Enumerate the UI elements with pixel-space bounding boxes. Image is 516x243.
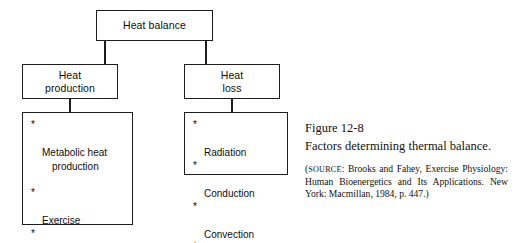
list-item-label: Radiation	[204, 147, 246, 158]
connector-balance-to-production	[104, 41, 106, 64]
list-item: * Conduction	[193, 160, 280, 201]
list-item: * Radiation	[193, 119, 280, 160]
list-item: * Exercise	[31, 187, 125, 228]
node-heat-loss: Heat loss	[184, 64, 280, 99]
figure-caption: Figure 12-8 Factors determining thermal …	[305, 120, 508, 201]
connector-production-to-factors	[69, 99, 71, 112]
bullet-icon: *	[31, 227, 35, 241]
node-loss-factors: * Radiation * Conduction * Convection * …	[184, 112, 288, 175]
node-heat-balance: Heat balance	[96, 10, 213, 41]
bullet-icon: *	[193, 118, 197, 132]
bullet-icon: *	[193, 200, 197, 214]
figure-description: Factors determining thermal balance.	[305, 138, 508, 154]
loss-factors-list: * Radiation * Conduction * Convection * …	[193, 119, 280, 243]
bullet-icon: *	[31, 118, 35, 132]
node-production-factors: * Metabolic heat production * Exercise *…	[22, 112, 133, 225]
list-item: * Metabolic heat production	[31, 119, 125, 187]
list-item-label: Convection	[204, 229, 254, 240]
figure-source: (SOURCE: Brooks and Fahey, Exercise Phys…	[305, 163, 508, 201]
bullet-icon: *	[193, 159, 197, 173]
node-heat-loss-label: Heat loss	[221, 69, 244, 94]
list-item: * Shivering	[31, 228, 125, 243]
list-item: * Convection	[193, 201, 280, 242]
list-item-label: Conduction	[204, 188, 255, 199]
heat-balance-flowchart: Heat balance Heat production Heat loss *…	[0, 0, 305, 243]
node-heat-production: Heat production	[22, 64, 118, 99]
connector-balance-to-loss	[205, 41, 207, 64]
node-heat-balance-label: Heat balance	[123, 19, 186, 31]
list-item-label: Metabolic heat	[42, 147, 107, 158]
production-factors-list: * Metabolic heat production * Exercise *…	[31, 119, 125, 243]
node-heat-production-label: Heat production	[45, 69, 95, 94]
list-item-label: Exercise	[42, 215, 80, 226]
bullet-icon: *	[31, 186, 35, 200]
list-item-continuation: production	[42, 160, 125, 174]
connector-loss-to-factors	[231, 99, 233, 112]
figure-number: Figure 12-8	[305, 120, 508, 137]
source-label: SOURCE	[308, 165, 342, 174]
